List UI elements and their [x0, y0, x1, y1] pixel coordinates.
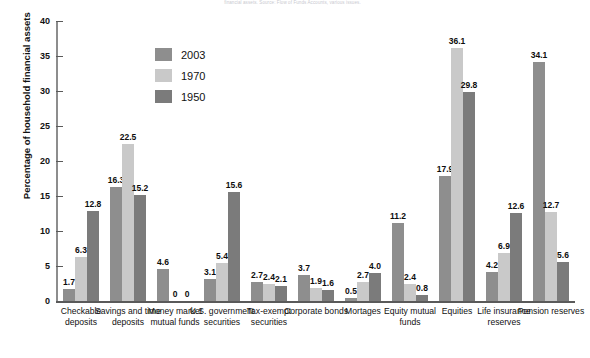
bar-slot: 34.1 [533, 21, 545, 301]
bar-slot: 1.9 [310, 21, 322, 301]
bar[interactable] [369, 273, 381, 301]
bar-group: 0.52.74.0Mortages [345, 21, 381, 301]
y-axis-tick [56, 196, 63, 197]
bar[interactable] [545, 212, 557, 301]
y-axis-tick-label: 0 [24, 297, 50, 306]
bar[interactable] [87, 211, 99, 301]
bar-group-bars: 17.936.129.8 [439, 21, 475, 301]
legend-label: 2003 [181, 49, 205, 61]
bar-group: 17.936.129.8Equities [439, 21, 475, 301]
bar[interactable] [439, 176, 451, 301]
y-axis-tick-label: 40 [24, 17, 50, 26]
bar[interactable] [298, 275, 310, 301]
y-axis-tick [56, 56, 63, 57]
bar[interactable] [275, 286, 287, 301]
bar-value-label: 4.0 [369, 262, 381, 271]
bar-slot: 4.0 [369, 21, 381, 301]
bar-value-label: 5.4 [216, 252, 228, 261]
bar[interactable] [533, 62, 545, 301]
bar-group-bars: 0.52.74.0 [345, 21, 381, 301]
bar-value-label: 2.4 [263, 273, 275, 282]
legend-swatch [155, 90, 172, 103]
bar[interactable] [345, 298, 357, 302]
bar-value-label: 6.3 [75, 246, 87, 255]
bar-group: 1.76.312.8Checkable deposits [63, 21, 99, 301]
bar-slot: 17.9 [439, 21, 451, 301]
bar[interactable] [404, 284, 416, 301]
bar[interactable] [204, 279, 216, 301]
bar-group: 3.71.91.6Corporate bonds [298, 21, 334, 301]
bar-value-label: 4.2 [486, 261, 498, 270]
bar-slot: 0.8 [416, 21, 428, 301]
bar[interactable] [486, 272, 498, 301]
bar[interactable] [228, 192, 240, 301]
bar[interactable] [110, 187, 122, 301]
bar-slot: 12.8 [87, 21, 99, 301]
bar-slot: 2.7 [357, 21, 369, 301]
bar-slot: 5.6 [557, 21, 569, 301]
legend-item[interactable]: 1970 [155, 65, 205, 86]
bar-group-bars: 3.71.91.6 [298, 21, 334, 301]
plot-area: 0510152025303540 1.76.312.8Checkable dep… [57, 21, 575, 301]
bar-slot: 22.5 [122, 21, 134, 301]
bar[interactable] [463, 92, 475, 301]
legend-item[interactable]: 2003 [155, 44, 205, 65]
legend-label: 1970 [181, 70, 205, 82]
bar-value-label: 1.6 [322, 279, 334, 288]
legend-swatch [155, 48, 172, 61]
legend-label: 1950 [181, 91, 205, 103]
bar[interactable] [216, 263, 228, 301]
y-axis-tick-label: 15 [24, 192, 50, 201]
y-axis-title: Percentage of household financial assets [21, 6, 33, 206]
bar-slot: 2.7 [251, 21, 263, 301]
bar[interactable] [310, 288, 322, 301]
bar-group-bars: 34.112.75.6 [533, 21, 569, 301]
bar-group: 11.22.40.8Equity mutual funds [392, 21, 428, 301]
bar-slot: 36.1 [451, 21, 463, 301]
bar-slot: 1.7 [63, 21, 75, 301]
bar[interactable] [357, 282, 369, 301]
bar[interactable] [75, 257, 87, 301]
bar-slot: 15.2 [134, 21, 146, 301]
bar[interactable] [557, 262, 569, 301]
bar-group-bars: 2.72.42.1 [251, 21, 287, 301]
bar-value-label: 1.9 [310, 277, 322, 286]
bar-slot: 1.6 [322, 21, 334, 301]
y-axis-tick [56, 91, 63, 92]
y-axis-tick [56, 21, 63, 22]
legend-swatch [155, 69, 172, 82]
bar[interactable] [134, 195, 146, 301]
y-axis-tick [56, 126, 63, 127]
bar[interactable] [122, 144, 134, 302]
y-axis-tick-label: 20 [24, 157, 50, 166]
bar[interactable] [251, 282, 263, 301]
bar-value-label: 4.6 [157, 258, 169, 267]
bar-value-label: 0.8 [416, 284, 428, 293]
bar-value-label: 2.7 [251, 271, 263, 280]
bar-value-label: 15.2 [132, 184, 149, 193]
bar-slot: 6.9 [498, 21, 510, 301]
bar[interactable] [498, 253, 510, 301]
bar-group: 2.72.42.1Tax-exempt securities [251, 21, 287, 301]
bar-value-label: 3.1 [204, 268, 216, 277]
bar-slot: 2.4 [404, 21, 416, 301]
bar[interactable] [510, 213, 522, 301]
bar[interactable] [322, 290, 334, 301]
bar[interactable] [263, 284, 275, 301]
chart-legend: 200319701950 [155, 44, 205, 107]
bar[interactable] [392, 223, 404, 301]
bar-slot: 12.6 [510, 21, 522, 301]
bar-value-label: 2.4 [404, 273, 416, 282]
y-axis-tick [56, 266, 63, 267]
legend-item[interactable]: 1950 [155, 86, 205, 107]
bar-value-label: 6.9 [498, 242, 510, 251]
bar-value-label: 15.6 [226, 181, 243, 190]
x-axis-category-label: Pension reserves [514, 306, 588, 317]
bar[interactable] [416, 295, 428, 301]
bar[interactable] [157, 269, 169, 301]
bar-slot: 2.4 [263, 21, 275, 301]
bar-slot: 3.1 [204, 21, 216, 301]
bar-value-label: 3.7 [298, 264, 310, 273]
bar-slot: 6.3 [75, 21, 87, 301]
bar[interactable] [63, 289, 75, 301]
